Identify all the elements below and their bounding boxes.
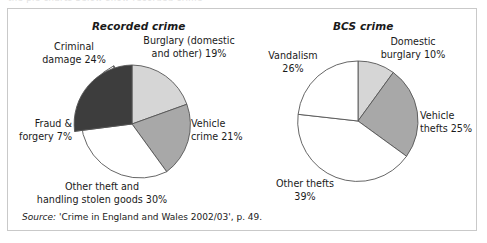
- pie-label-vehicle-crime: Vehicle crime 21%: [191, 118, 263, 143]
- pie-label-other-thefts: Other thefts 39%: [261, 178, 349, 203]
- source-note: Source: 'Crime in England and Wales 2002…: [22, 212, 262, 222]
- pie-label-other-theft: Other theft and handling stolen goods 30…: [14, 181, 190, 206]
- chart-title-recorded-crime: Recorded crime: [92, 20, 186, 32]
- pie-label-vehicle-thefts: Vehicle thefts 25%: [420, 110, 484, 135]
- pie-slice-criminal-damage: [74, 65, 132, 131]
- source-citation: 'Crime in England and Wales 2002/03', p.…: [59, 212, 262, 222]
- pie-label-burglary: Burglary (domestic and other) 19%: [133, 35, 245, 60]
- chart-title-bcs-crime: BCS crime: [333, 20, 394, 32]
- pie-label-criminal-damage: Criminal damage 24%: [22, 41, 126, 66]
- pie-chart-recorded-crime: [62, 54, 202, 194]
- pie-label-vandalism: Vandalism 26%: [256, 50, 330, 75]
- pie-label-fraud-forgery: Fraud & forgery 7%: [4, 118, 72, 143]
- cropped-caption-remnant: the pie charts below show recorded crime: [8, 0, 203, 3]
- source-label: Source:: [22, 212, 56, 222]
- figure-root: the pie charts below show recorded crime…: [0, 0, 487, 243]
- top-bleed-region: the pie charts below show recorded crime: [0, 0, 487, 7]
- pie-label-domestic-burglary: Domestic burglary 10%: [358, 36, 468, 61]
